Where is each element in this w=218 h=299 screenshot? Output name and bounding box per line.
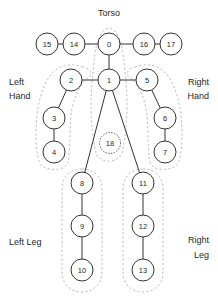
joint-label-12: 12 (139, 222, 147, 231)
joint-node-3[interactable]: 3 (43, 107, 65, 129)
joint-label-0: 0 (107, 40, 111, 49)
joint-label-11: 11 (139, 179, 147, 188)
joint-label-4: 4 (52, 148, 56, 157)
edge-1-11 (112, 90, 139, 172)
joint-node-17[interactable]: 17 (160, 33, 182, 55)
group-label-left-hand: Left (9, 77, 25, 87)
joint-label-18: 18 (106, 139, 114, 148)
joint-label-2: 2 (69, 76, 73, 85)
joint-node-11[interactable]: 11 (132, 172, 154, 194)
joint-label-15: 15 (43, 40, 51, 49)
joint-node-13[interactable]: 13 (132, 259, 154, 281)
joint-label-13: 13 (139, 266, 147, 275)
joint-node-7[interactable]: 7 (154, 141, 176, 163)
joint-label-10: 10 (78, 266, 86, 275)
joint-node-18[interactable]: 18 (100, 133, 121, 154)
joint-node-4[interactable]: 4 (43, 141, 65, 163)
group-label-left-hand2: Hand (9, 91, 31, 101)
joint-nodes: 0123456789101112131415161718 (36, 33, 182, 281)
edge-1-8 (85, 91, 106, 173)
figure-canvas: 0123456789101112131415161718 TorsoLeftHa… (0, 0, 218, 299)
joint-node-14[interactable]: 14 (63, 33, 85, 55)
joint-label-9: 9 (80, 222, 84, 231)
joint-label-5: 5 (145, 76, 149, 85)
edge-2-3 (58, 90, 66, 108)
group-label-right-leg: Right (188, 235, 210, 245)
joint-label-17: 17 (167, 40, 175, 49)
group-label-left-leg: Left Leg (9, 237, 42, 247)
joint-node-2[interactable]: 2 (60, 69, 82, 91)
joint-label-16: 16 (140, 40, 148, 49)
skeleton-graph-svg: 0123456789101112131415161718 TorsoLeftHa… (0, 0, 218, 299)
joint-label-8: 8 (80, 179, 84, 188)
group-label-right-hand: Right (188, 77, 210, 87)
group-label-torso: Torso (98, 8, 120, 18)
joint-node-10[interactable]: 10 (71, 259, 93, 281)
group-label-right-leg2: Leg (194, 250, 209, 260)
joint-node-8[interactable]: 8 (71, 172, 93, 194)
joint-node-5[interactable]: 5 (136, 69, 158, 91)
joint-label-14: 14 (70, 40, 78, 49)
joint-label-3: 3 (52, 114, 56, 123)
joint-node-6[interactable]: 6 (154, 107, 176, 129)
joint-node-1[interactable]: 1 (98, 69, 120, 91)
joint-label-7: 7 (163, 148, 167, 157)
joint-node-0[interactable]: 0 (98, 33, 120, 55)
joint-label-1: 1 (107, 76, 111, 85)
joint-node-12[interactable]: 12 (132, 215, 154, 237)
joint-node-16[interactable]: 16 (133, 33, 155, 55)
edge-5-6 (152, 90, 161, 108)
joint-label-6: 6 (163, 114, 167, 123)
joint-node-15[interactable]: 15 (36, 33, 58, 55)
group-label-right-hand2: Hand (187, 91, 209, 101)
joint-node-9[interactable]: 9 (71, 215, 93, 237)
